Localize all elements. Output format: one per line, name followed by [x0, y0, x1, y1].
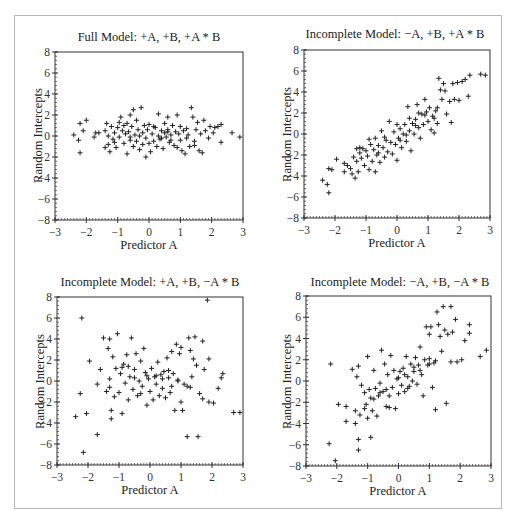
y-tick-label: 8	[295, 290, 301, 302]
y-tick-label: 0	[295, 375, 301, 387]
x-tick-label: −2	[331, 472, 343, 484]
plot-area	[306, 296, 491, 466]
scatter-plot: 86420−2−4−6−8−3−2−10123	[0, 0, 515, 522]
data-points	[327, 304, 489, 463]
y-tick-label: −2	[289, 396, 301, 408]
panel-incomplete-model-minus-a-minus-ab: Incomplete Model: −A, +B, −A * B Random …	[0, 0, 515, 522]
x-tick-label: 0	[396, 472, 402, 484]
y-tick-label: −4	[289, 418, 301, 430]
y-tick-label: −6	[289, 439, 301, 451]
y-tick-label: 2	[295, 354, 301, 366]
x-tick-label: 2	[457, 472, 463, 484]
x-tick-label: −3	[300, 472, 312, 484]
y-tick-label: 6	[295, 311, 301, 323]
y-tick-label: −8	[289, 460, 301, 472]
y-tick-label: 4	[295, 333, 301, 345]
x-tick-label: −1	[362, 472, 374, 484]
x-tick-label: 1	[426, 472, 432, 484]
x-tick-label: 3	[488, 472, 494, 484]
